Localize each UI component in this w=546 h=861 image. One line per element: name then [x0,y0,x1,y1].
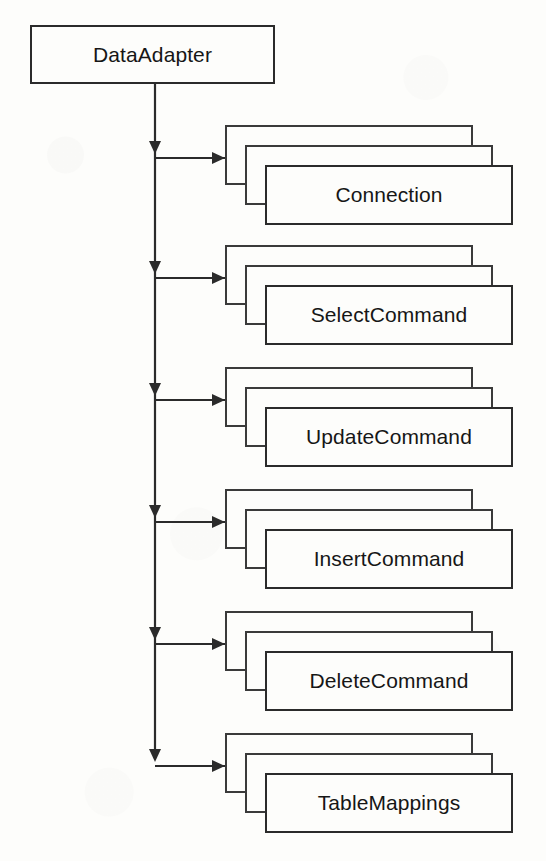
spine-arrowhead-selectcommand [149,261,161,274]
node-card-tablemappings: TableMappings [265,773,513,833]
node-label-insertcommand: InsertCommand [314,547,465,571]
node-label-tablemappings: TableMappings [318,791,461,815]
node-label-deletecommand: DeleteCommand [310,669,469,693]
branch-arrowhead-updatecommand [212,394,225,406]
node-dataadapter: DataAdapter [30,25,275,84]
node-card-selectcommand: SelectCommand [265,285,513,345]
branch-arrowhead-deletecommand [212,638,225,650]
branch-arrowhead-tablemappings [212,760,225,772]
node-label-connection: Connection [335,183,442,207]
spine-arrowhead-connection [149,141,161,154]
node-card-deletecommand: DeleteCommand [265,651,513,711]
node-label-selectcommand: SelectCommand [311,303,468,327]
node-label-updatecommand: UpdateCommand [306,425,472,449]
spine-arrowhead-updatecommand [149,383,161,396]
branch-arrowhead-connection [212,152,225,164]
dataadapter-object-diagram: DataAdapter ConnectionSelectCommandUpdat… [0,0,546,861]
node-card-updatecommand: UpdateCommand [265,407,513,467]
node-dataadapter-label: DataAdapter [93,43,212,67]
spine-arrowhead-insertcommand [149,505,161,518]
spine-arrowhead-tablemappings [149,749,161,762]
spine-arrowhead-deletecommand [149,627,161,640]
node-card-insertcommand: InsertCommand [265,529,513,589]
node-card-connection: Connection [265,165,513,225]
branch-arrowhead-insertcommand [212,516,225,528]
branch-arrowhead-selectcommand [212,272,225,284]
